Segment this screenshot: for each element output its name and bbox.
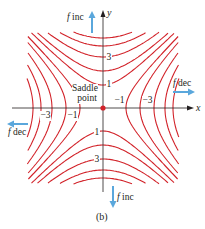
- note-f-dec-left: f dec: [8, 128, 26, 138]
- contour-label-bottom-1: 1: [94, 128, 100, 138]
- note-f-inc-bottom: f inc: [117, 193, 134, 203]
- saddle-point-marker: [100, 105, 105, 110]
- y-axis-arrowhead: [101, 10, 106, 17]
- contour-line: [154, 53, 179, 164]
- note-f-inc-top: f inc: [67, 13, 84, 23]
- arrow-right-icon: [173, 89, 195, 96]
- contour-label-left-minus-1: −1: [67, 111, 78, 121]
- contour-line: [48, 159, 159, 184]
- x-axis-arrowhead: [187, 106, 194, 111]
- contour-line: [48, 32, 159, 57]
- contour-label-left-minus-3: −3: [40, 111, 51, 121]
- x-axis-label: x: [196, 103, 200, 113]
- arrow-down-icon: [110, 186, 117, 208]
- saddle-point-label-line2: point: [72, 94, 98, 104]
- contour-plot: [0, 0, 205, 229]
- saddle-point-label: Saddle point: [72, 84, 98, 104]
- contour-label-right-minus-3: −3: [142, 96, 153, 106]
- note-text: dec: [176, 78, 192, 88]
- arrow-up-icon: [89, 11, 96, 33]
- note-f-dec-right: f dec: [173, 79, 191, 89]
- contour-line: [27, 53, 52, 164]
- note-text: inc: [70, 12, 84, 22]
- note-text: dec: [11, 127, 27, 137]
- note-text: inc: [120, 192, 134, 202]
- saddle-contour-figure: y x 1 3 1 3 −1 −3 −1 −3 Saddle point f i…: [0, 0, 205, 229]
- contour-label-right-minus-1: −1: [114, 96, 125, 106]
- contour-label-bottom-3: 3: [94, 155, 100, 165]
- figure-caption: (b): [96, 212, 108, 222]
- y-axis-label: y: [107, 8, 111, 18]
- contour-label-top-3: 3: [106, 53, 112, 63]
- contour-label-top-1: 1: [106, 80, 112, 90]
